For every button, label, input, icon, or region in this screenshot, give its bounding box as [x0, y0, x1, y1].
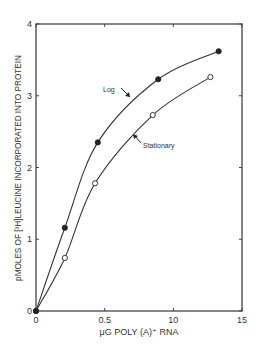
- y-axis-label: pMOLES OF [³H]LEUCINE INCORPORATED INTO …: [14, 55, 23, 281]
- x-tick-label: 0: [33, 315, 38, 325]
- plot-frame: [36, 24, 242, 311]
- x-axis-label: μG POLY (A)⁺ RNA: [100, 327, 179, 337]
- annotation-stationary: Stationary: [143, 142, 175, 150]
- chart: 00.5101501234 LogStationary μG POLY (A)⁺…: [0, 0, 262, 354]
- filled-circle-marker: [216, 49, 221, 54]
- open-circle-marker: [208, 74, 213, 79]
- y-tick-label: 4: [27, 19, 32, 29]
- y-tick-label: 0: [27, 306, 32, 316]
- filled-circle-marker: [156, 77, 161, 82]
- series-line-stationary: [36, 77, 210, 311]
- data-series: [33, 49, 221, 314]
- filled-circle-marker: [33, 308, 38, 313]
- annotation-log: Log: [103, 86, 115, 94]
- open-circle-marker: [62, 255, 67, 260]
- x-tick-label: 10: [168, 315, 178, 325]
- x-tick-label: 15: [237, 315, 247, 325]
- filled-circle-marker: [62, 225, 67, 230]
- series-line-log: [36, 51, 219, 311]
- y-tick-label: 1: [27, 234, 32, 244]
- open-circle-marker: [92, 181, 97, 186]
- y-tick-label: 3: [27, 91, 32, 101]
- plot-border: [36, 24, 242, 311]
- y-tick-label: 2: [27, 163, 32, 173]
- x-tick-label: 0.5: [98, 315, 111, 325]
- axis-ticks: 00.5101501234: [27, 19, 247, 325]
- filled-circle-marker: [95, 140, 100, 145]
- open-circle-marker: [150, 113, 155, 118]
